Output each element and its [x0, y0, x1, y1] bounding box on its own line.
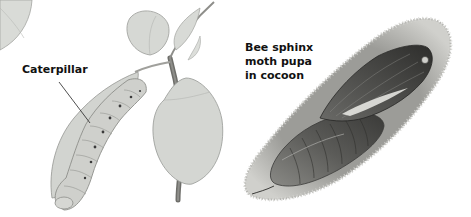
right-leaf — [153, 78, 223, 184]
caterpillar-label: Caterpillar — [22, 63, 88, 77]
pupa-label-line-1: Bee sphinx — [245, 41, 340, 55]
upper-narrow-leaf — [174, 8, 200, 60]
illustration-svg — [0, 0, 471, 217]
pupa-label-line-2: moth pupa — [245, 55, 340, 69]
illustration-canvas: Caterpillar Bee sphinx moth pupa in coco… — [0, 0, 471, 217]
pupa-label: Bee sphinx moth pupa in cocoon — [245, 41, 340, 83]
corner-leaf — [0, 0, 32, 50]
top-leaf — [127, 11, 169, 55]
pupa-label-line-3: in cocoon — [245, 69, 340, 83]
